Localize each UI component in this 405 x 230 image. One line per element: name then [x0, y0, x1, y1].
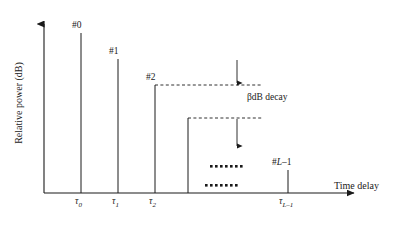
- tick-label-tau-0: τ0: [75, 197, 82, 207]
- tau-subscript: L–1: [282, 201, 293, 209]
- tick-label-tau-last: τL–1: [279, 197, 293, 207]
- tap-label-0: #0: [72, 21, 82, 31]
- tap-label-1: #1: [109, 47, 119, 57]
- tick-label-tau-2: τ2: [149, 197, 156, 207]
- tau-subscript: 0: [78, 201, 82, 209]
- x-axis-title: Time delay: [334, 181, 379, 191]
- plot-canvas: [0, 0, 405, 230]
- ellipsis-upper: [210, 165, 243, 168]
- ellipsis-lower: [205, 184, 238, 187]
- impulse-response-figure: Relative power (dB) Time delay #0 #1 #2 …: [0, 0, 405, 230]
- tau-subscript: 2: [152, 201, 156, 209]
- tap-label-2: #2: [146, 73, 156, 83]
- decay-annotation-label: βdB decay: [247, 93, 287, 103]
- tap-last-suffix: –1: [282, 157, 292, 167]
- y-axis-title: Relative power (dB): [14, 48, 24, 158]
- tap-label-last: #L–1: [272, 158, 292, 168]
- tick-label-tau-1: τ1: [112, 197, 119, 207]
- tau-subscript: 1: [115, 201, 119, 209]
